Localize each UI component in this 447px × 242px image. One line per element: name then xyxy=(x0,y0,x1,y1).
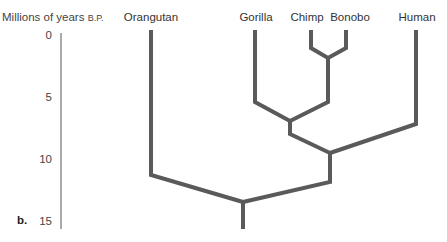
branch-gorilla xyxy=(255,30,290,121)
phylogenetic-tree xyxy=(0,0,447,242)
branch-hominine-stem xyxy=(243,153,330,202)
branch-chimp-bonobo xyxy=(311,30,346,58)
branch-orangutan xyxy=(151,30,243,202)
branch-pan-stem xyxy=(290,58,328,121)
branch-african-ape-stem xyxy=(290,121,330,153)
tree-branches xyxy=(151,30,416,229)
